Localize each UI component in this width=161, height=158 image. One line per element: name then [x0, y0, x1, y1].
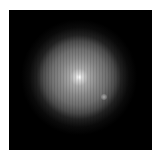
secondary-highlight	[101, 94, 107, 100]
scan-texture	[9, 10, 152, 150]
image-frame	[9, 10, 152, 150]
